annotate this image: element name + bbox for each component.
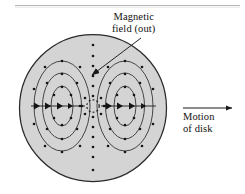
field-dot <box>53 94 56 97</box>
field-dot <box>109 82 112 85</box>
field-dot <box>92 136 95 139</box>
field-dot <box>92 65 95 68</box>
field-dot <box>79 66 82 69</box>
eddy-current-diagram: Magnetic field (out) Motion of disk <box>0 0 245 194</box>
field-dot <box>152 88 155 91</box>
field-dot <box>116 117 119 120</box>
motion-label-line2: of disk <box>183 123 215 135</box>
field-dot <box>124 60 127 63</box>
field-dot <box>79 105 82 108</box>
field-dot <box>133 94 136 97</box>
field-dot <box>61 124 64 127</box>
field-dot <box>124 124 127 127</box>
field-dot <box>92 169 95 172</box>
field-dot <box>92 44 95 47</box>
motion-label-line1: Motion <box>183 111 215 123</box>
field-dot <box>109 128 112 131</box>
field-dot <box>61 73 64 76</box>
field-dot <box>107 145 110 148</box>
field-dot <box>33 123 36 126</box>
field-dot <box>46 128 49 131</box>
field-dot <box>141 66 144 69</box>
field-dot <box>105 105 108 108</box>
magnetic-field-label: Magnetic field (out) <box>112 11 155 35</box>
field-dot <box>92 146 95 149</box>
field-dot <box>79 145 82 148</box>
field-dot <box>84 97 87 100</box>
field-dot <box>76 128 79 131</box>
field-dot <box>124 73 127 76</box>
field-dot <box>76 82 79 85</box>
field-dot <box>92 156 95 159</box>
field-dot <box>100 97 103 100</box>
field-dot <box>124 86 127 89</box>
field-dot <box>100 113 103 116</box>
magnetic-field-label-line1: Magnetic <box>112 11 155 23</box>
field-dot <box>133 117 136 120</box>
field-dot <box>139 82 142 85</box>
field-dot <box>61 60 64 63</box>
field-dot <box>70 94 73 97</box>
field-dot <box>152 123 155 126</box>
field-dot <box>92 85 95 88</box>
field-dot <box>92 126 95 129</box>
field-dot <box>53 117 56 120</box>
field-dot <box>44 66 47 69</box>
field-dot <box>92 95 95 98</box>
field-dot <box>92 55 95 58</box>
motion-of-disk-label: Motion of disk <box>183 111 215 135</box>
field-dot <box>61 151 64 154</box>
field-dot <box>124 138 127 141</box>
field-dot <box>141 145 144 148</box>
field-dot <box>116 94 119 97</box>
field-dot <box>61 86 64 89</box>
field-dot <box>44 145 47 148</box>
field-dot <box>139 128 142 131</box>
field-dot <box>61 138 64 141</box>
field-dot <box>46 82 49 85</box>
field-dot <box>107 66 110 69</box>
field-dot <box>70 117 73 120</box>
field-dot <box>92 116 95 119</box>
magnetic-field-label-line2: field (out) <box>112 23 155 35</box>
field-dot <box>84 113 87 116</box>
field-dot <box>124 151 127 154</box>
field-dot <box>33 88 36 91</box>
